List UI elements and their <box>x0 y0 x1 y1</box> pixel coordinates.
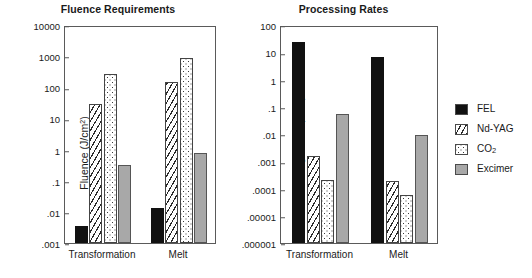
bar-co2-transformation <box>321 180 334 243</box>
y-tick-label: .001 <box>258 159 282 169</box>
bar-fel-transformation <box>75 226 88 243</box>
legend-label: Nd-YAG <box>477 124 514 134</box>
bar-group-container-rates <box>281 27 437 243</box>
y-tick-label: .0001 <box>252 186 281 196</box>
y-tick-label: .000001 <box>242 240 281 250</box>
bar-nd-yag-transformation <box>307 156 320 243</box>
bar-group <box>65 27 141 243</box>
plot-area-rates: Processing Rates (m2/s) 100101.1.01.001.… <box>280 26 438 244</box>
y-tick-label: 1000 <box>39 53 65 63</box>
y-tick-label: .001 <box>42 240 66 250</box>
legend-item-nd-yag[interactable]: Nd-YAG <box>455 119 530 139</box>
legend-label: FEL <box>477 104 495 114</box>
bar-group <box>281 27 360 243</box>
y-tick-label: .01 <box>47 209 65 219</box>
legend-item-excimer[interactable]: Excimer <box>455 159 530 179</box>
y-tick-mark <box>65 245 69 246</box>
legend-swatch-icon <box>455 164 468 175</box>
bar-group <box>141 27 217 243</box>
y-tick-label: .1 <box>52 178 65 188</box>
figure-two-panel-bar-charts: Fluence Requirements Fluence (J/cm2) 100… <box>0 0 532 278</box>
bar-group <box>360 27 439 243</box>
legend-item-fel[interactable]: FEL <box>455 99 530 119</box>
y-tick-label: .00001 <box>247 213 281 223</box>
panel-fluence-requirements: Fluence Requirements Fluence (J/cm2) 100… <box>0 0 240 278</box>
bar-co2-melt <box>400 195 413 243</box>
plot-area-fluence: Fluence (J/cm2) 100001000100101.1.01.001 <box>64 26 216 244</box>
x-tick-label-transformation: Transformation <box>286 249 353 260</box>
bar-nd-yag-melt <box>386 181 399 243</box>
y-tick-label: 10 <box>265 50 281 60</box>
x-tick-label-melt: Melt <box>169 249 188 260</box>
y-tick-label: 10 <box>49 116 65 126</box>
bar-excimer-transformation <box>336 114 349 243</box>
chart-title-fluence: Fluence Requirements <box>18 3 218 15</box>
panel-processing-rates: Processing Rates Processing Rates (m2/s)… <box>236 0 451 278</box>
bar-group-container-fluence <box>65 27 215 243</box>
y-tick-label: 100 <box>260 22 281 32</box>
chart-legend: FELNd-YAGCO2Excimer <box>455 99 530 179</box>
legend-swatch-icon <box>455 124 468 135</box>
y-tick-label: .1 <box>268 104 281 114</box>
bar-fel-melt <box>371 57 384 243</box>
bar-fel-melt <box>151 208 164 243</box>
y-tick-label: 10000 <box>34 22 65 32</box>
y-tick-label: 1 <box>271 77 281 87</box>
bar-fel-transformation <box>292 42 305 243</box>
bar-co2-melt <box>180 58 193 243</box>
legend-swatch-icon <box>455 104 468 115</box>
legend-swatch-icon <box>455 144 468 155</box>
y-tick-label: 1 <box>55 147 65 157</box>
x-tick-label-transformation: Transformation <box>69 249 136 260</box>
bar-excimer-melt <box>194 153 207 243</box>
legend-item-co2[interactable]: CO2 <box>455 139 530 159</box>
y-tick-label: 100 <box>44 85 65 95</box>
y-tick-mark <box>281 245 285 246</box>
legend-label: CO2 <box>477 144 496 155</box>
bar-excimer-melt <box>415 135 428 243</box>
chart-title-rates: Processing Rates <box>246 3 441 15</box>
x-tick-label-melt: Melt <box>389 249 408 260</box>
bar-excimer-transformation <box>118 165 131 243</box>
bar-co2-transformation <box>104 74 117 243</box>
legend-label: Excimer <box>477 164 513 174</box>
bar-nd-yag-melt <box>165 82 178 243</box>
bar-nd-yag-transformation <box>89 104 102 243</box>
y-tick-label: .01 <box>263 131 281 141</box>
